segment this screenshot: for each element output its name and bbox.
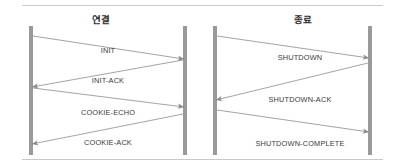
sctp-sequence-diagram: 연결 종료 INITINIT-ACKCOOKIE-ECHOCOOKIE-ACKS… xyxy=(0,0,405,168)
message-label-1-1: SHUTDOWN-ACK xyxy=(269,95,332,104)
lifeline-server-lifeline-1-1 xyxy=(368,26,372,155)
lifeline-client-lifeline-1-0 xyxy=(213,26,217,155)
lifeline-client-lifeline-0-0 xyxy=(29,26,33,155)
message-label-0-2: COOKIE-ECHO xyxy=(81,108,135,117)
lifeline-server-lifeline-0-1 xyxy=(183,26,187,155)
message-label-1-2: SHUTDOWN-COMPLETE xyxy=(255,139,344,148)
message-label-0-3: COOKIE-ACK xyxy=(84,138,132,147)
message-arrow-0-2 xyxy=(33,88,184,107)
message-label-0-1: INIT-ACK xyxy=(92,76,124,85)
message-label-1-0: SHUTDOWN xyxy=(278,53,323,62)
message-arrow-1-2 xyxy=(217,110,369,132)
lifelines-group xyxy=(29,26,372,155)
message-label-0-0: INIT xyxy=(101,46,116,55)
